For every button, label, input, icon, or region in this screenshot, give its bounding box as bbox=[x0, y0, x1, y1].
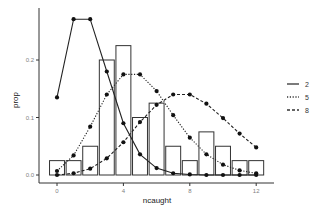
point-lambda-8 bbox=[221, 116, 225, 120]
point-lambda-5 bbox=[155, 89, 159, 93]
y-ticks: 0.00.10.2 bbox=[26, 57, 39, 178]
bar-7 bbox=[166, 146, 181, 175]
x-ticks: 04812 bbox=[55, 183, 260, 194]
y-tick-label: 0.1 bbox=[26, 115, 35, 121]
point-lambda-8 bbox=[171, 92, 175, 96]
point-lambda-8 bbox=[238, 132, 242, 136]
bar-4 bbox=[116, 46, 131, 175]
point-lambda-5 bbox=[88, 125, 92, 129]
bar-11 bbox=[232, 161, 247, 175]
legend-label-8: 8 bbox=[305, 107, 309, 114]
legend-label-5: 5 bbox=[305, 94, 309, 101]
point-lambda-2 bbox=[171, 171, 175, 175]
bar-5 bbox=[133, 118, 148, 176]
point-lambda-2 bbox=[138, 152, 142, 156]
point-lambda-2 bbox=[72, 17, 76, 21]
point-lambda-5 bbox=[72, 153, 76, 157]
point-lambda-2 bbox=[221, 173, 225, 177]
point-lambda-2 bbox=[238, 173, 242, 177]
x-tick-label: 4 bbox=[122, 188, 126, 194]
point-lambda-8 bbox=[188, 92, 192, 96]
point-lambda-2 bbox=[105, 69, 109, 73]
point-lambda-2 bbox=[204, 173, 208, 177]
point-lambda-2 bbox=[121, 121, 125, 125]
point-lambda-5 bbox=[238, 168, 242, 172]
point-lambda-8 bbox=[138, 120, 142, 124]
point-lambda-5 bbox=[254, 171, 258, 175]
x-tick-label: 12 bbox=[253, 188, 260, 194]
point-lambda-5 bbox=[138, 72, 142, 76]
bar-10 bbox=[216, 146, 231, 175]
x-axis-title: ncaught bbox=[143, 196, 172, 205]
point-lambda-2 bbox=[155, 166, 159, 170]
point-lambda-5 bbox=[204, 152, 208, 156]
point-lambda-8 bbox=[155, 103, 159, 107]
y-tick-label: 0.0 bbox=[26, 172, 35, 178]
x-tick-label: 0 bbox=[55, 188, 59, 194]
point-lambda-2 bbox=[88, 17, 92, 21]
point-lambda-8 bbox=[55, 173, 59, 177]
point-lambda-8 bbox=[72, 171, 76, 175]
point-lambda-5 bbox=[188, 136, 192, 140]
point-lambda-5 bbox=[105, 92, 109, 96]
point-lambda-5 bbox=[171, 113, 175, 117]
legend-label-2: 2 bbox=[305, 81, 309, 88]
bars-layer bbox=[50, 46, 264, 175]
point-lambda-8 bbox=[204, 102, 208, 106]
point-lambda-8 bbox=[254, 145, 258, 149]
point-lambda-5 bbox=[221, 163, 225, 167]
point-lambda-5 bbox=[121, 72, 125, 76]
point-lambda-8 bbox=[121, 140, 125, 144]
point-lambda-2 bbox=[188, 172, 192, 176]
poisson-chart: 0.00.10.2 04812 ncaught prop 258 bbox=[0, 0, 324, 213]
y-tick-label: 0.2 bbox=[26, 57, 35, 63]
x-tick-label: 8 bbox=[188, 188, 192, 194]
point-lambda-8 bbox=[88, 167, 92, 171]
point-lambda-8 bbox=[105, 156, 109, 160]
point-lambda-2 bbox=[55, 95, 59, 99]
y-axis-title: prop bbox=[11, 91, 20, 108]
point-lambda-5 bbox=[55, 169, 59, 173]
legend: 258 bbox=[287, 81, 309, 114]
